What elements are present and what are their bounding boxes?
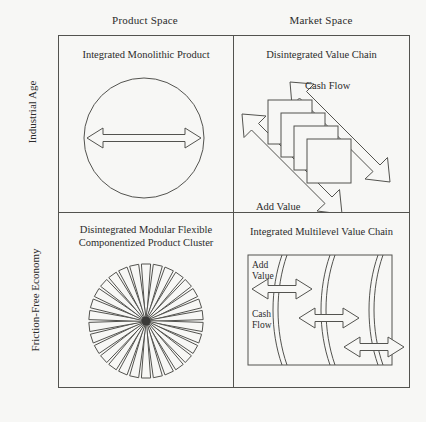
quadrant-integrated-multilevel-value-chain: Integrated Multilevel Value Chain xyxy=(234,213,409,387)
row-label-industrial-age: Industrial Age xyxy=(25,62,39,162)
matrix-frame: Integrated Monolithic Product Disintegra… xyxy=(58,35,410,388)
row-label-friction-free-economy: Friction-Free Economy xyxy=(28,225,42,375)
label-add-value: Add Value xyxy=(256,201,301,212)
figure-radial-starburst-cluster xyxy=(59,213,233,387)
label-cash-flow-line-1: Cash xyxy=(252,309,271,319)
label-cash-flow: Cash Flow xyxy=(305,80,351,91)
quadrant-disintegrated-value-chain: Disintegrated Value Chain Cash Flow Add … xyxy=(234,36,409,212)
figure-circle-with-double-arrow xyxy=(59,36,233,212)
quadrant-disintegrated-modular-product-cluster: Disintegrated Modular Flexible Component… xyxy=(59,213,233,387)
column-header-product-space: Product Space xyxy=(58,14,232,26)
label-add-value-line-2: Value xyxy=(252,271,274,281)
column-header-market-space: Market Space xyxy=(232,14,410,26)
figure-cascading-squares-with-diagonal-arrows: Cash Flow Add Value xyxy=(234,36,409,212)
label-add-value-line-1: Add xyxy=(252,260,269,270)
label-cash-flow-line-2: Flow xyxy=(252,320,272,330)
quadrant-integrated-monolithic-product: Integrated Monolithic Product xyxy=(59,36,233,212)
figure-curved-bands-with-horizontal-arrows: Add Value Cash Flow xyxy=(234,213,409,387)
